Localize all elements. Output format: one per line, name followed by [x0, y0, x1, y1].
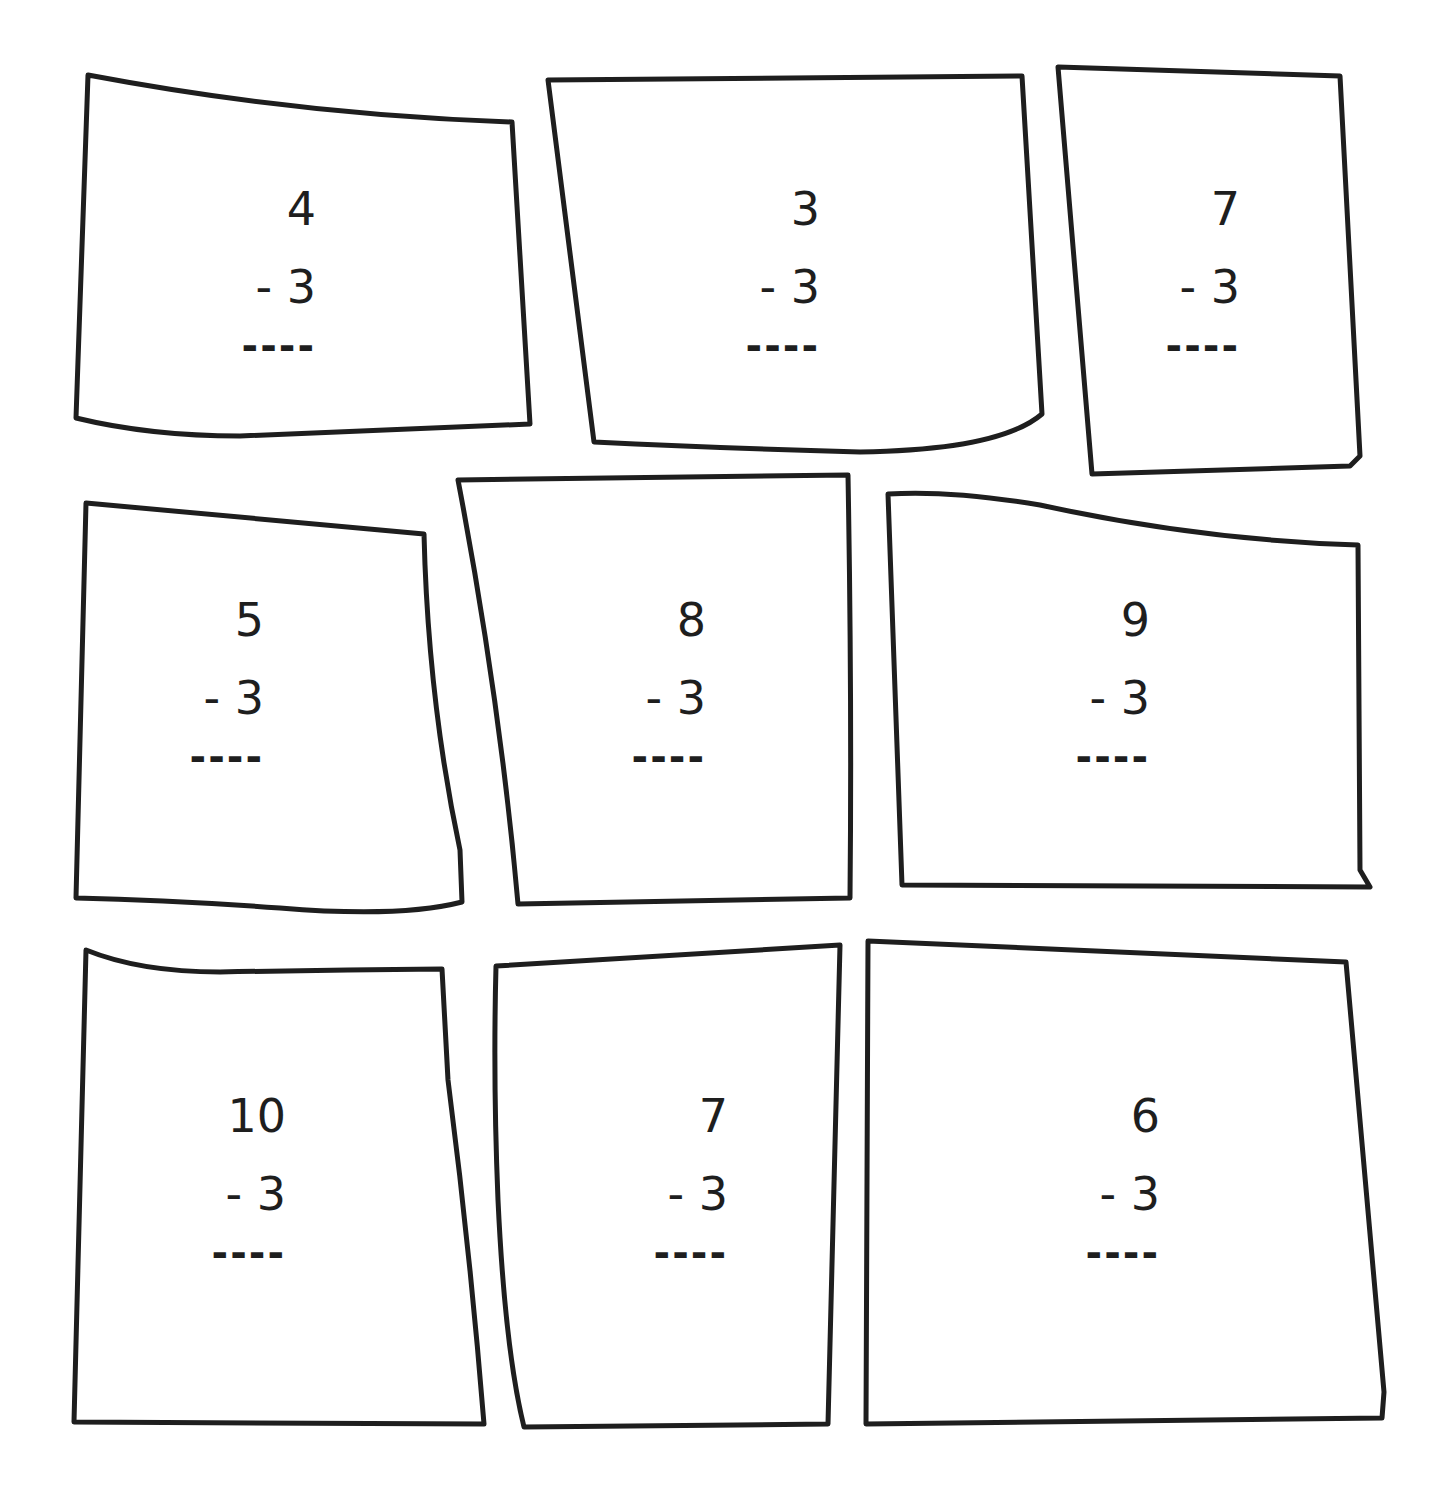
answer-line: ----: [1070, 747, 1150, 767]
subtrahend: - 3: [1160, 264, 1240, 310]
subtrahend: - 3: [626, 675, 706, 721]
minuend: 10: [206, 1093, 286, 1139]
problem-card-5: 8 - 3 ----: [626, 597, 706, 767]
minuend: 9: [1070, 597, 1150, 643]
answer-line: ----: [648, 1243, 728, 1263]
card-4-outline: [76, 503, 462, 912]
minuend: 7: [648, 1093, 728, 1139]
answer-line: ----: [184, 747, 264, 767]
answer-line: ----: [740, 336, 820, 356]
subtrahend: - 3: [1070, 675, 1150, 721]
answer-line: ----: [236, 336, 316, 356]
minuend: 5: [184, 597, 264, 643]
answer-line: ----: [1080, 1243, 1160, 1263]
problem-card-3: 7 - 3 ----: [1160, 186, 1240, 356]
subtrahend: - 3: [236, 264, 316, 310]
minuend: 6: [1080, 1093, 1160, 1139]
subtrahend: - 3: [184, 675, 264, 721]
problem-card-6: 9 - 3 ----: [1070, 597, 1150, 767]
problem-card-4: 5 - 3 ----: [184, 597, 264, 767]
problem-card-2: 3 - 3 ----: [740, 186, 820, 356]
problem-card-8: 7 - 3 ----: [648, 1093, 728, 1263]
minuend: 8: [626, 597, 706, 643]
answer-line: ----: [626, 747, 706, 767]
problem-card-9: 6 - 3 ----: [1080, 1093, 1160, 1263]
problem-card-7: 10 - 3 ----: [206, 1093, 286, 1263]
answer-line: ----: [1160, 336, 1240, 356]
answer-line: ----: [206, 1243, 286, 1263]
subtrahend: - 3: [1080, 1171, 1160, 1217]
minuend: 3: [740, 186, 820, 232]
problem-card-1: 4 - 3 ----: [236, 186, 316, 356]
minuend: 7: [1160, 186, 1240, 232]
subtrahend: - 3: [206, 1171, 286, 1217]
subtrahend: - 3: [740, 264, 820, 310]
minuend: 4: [236, 186, 316, 232]
subtrahend: - 3: [648, 1171, 728, 1217]
